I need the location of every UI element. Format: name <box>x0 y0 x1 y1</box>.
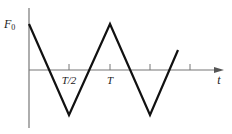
tick-label-half-period: T/2 <box>62 74 77 86</box>
x-axis-label-t: t <box>217 73 221 87</box>
tick-label-period: T <box>107 74 114 86</box>
y-label-f0: F0 <box>3 17 15 32</box>
triangle-wave-diagram: F0 T/2 T t <box>0 0 232 134</box>
